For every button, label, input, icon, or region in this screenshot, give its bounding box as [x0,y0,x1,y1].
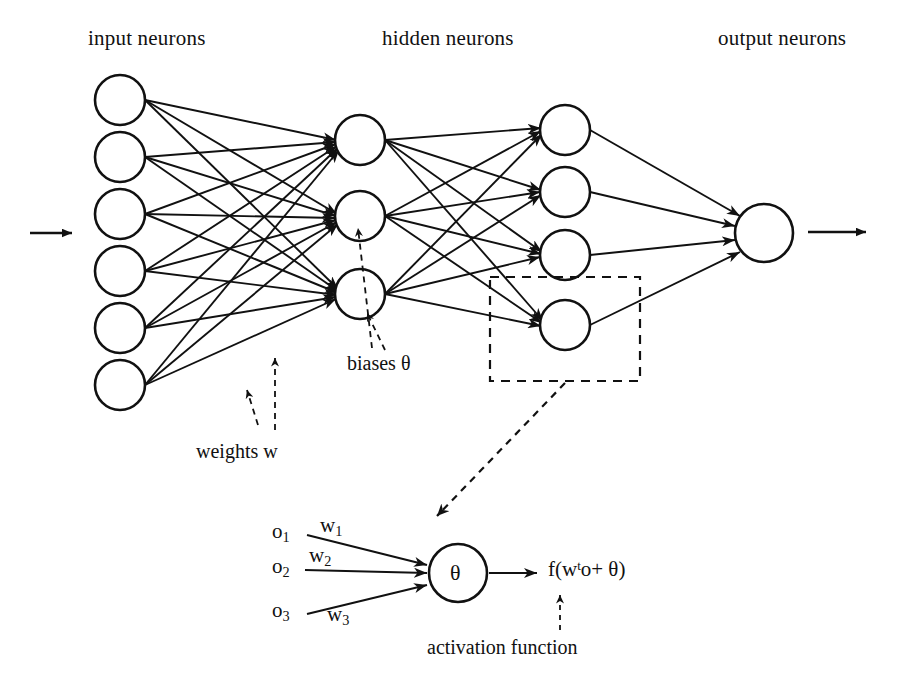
neuron-hidden1-2 [335,191,385,241]
inset-input-o1: o1 [272,519,290,546]
label-hidden-neurons: hidden neurons [382,26,514,51]
neuron-input-4 [95,246,145,296]
neuron-input-2 [95,132,145,182]
neuron-hidden1-3 [335,269,385,319]
edges-hidden2-to-output [590,130,740,325]
edges-input-to-hidden1 [145,100,339,385]
neuron-hidden2-1 [540,105,590,155]
label-output-neurons: output neurons [718,26,846,51]
neuron-input-1 [95,75,145,125]
inset-input-o2: o2 [272,554,290,581]
label-activation-function: activation function [427,636,578,659]
neuron-hidden2-4 [540,300,590,350]
neuron-hidden2-3 [540,230,590,280]
label-biases: biases θ [347,352,410,375]
neuron-output-1 [735,204,793,262]
inset-edge-3 [307,585,427,614]
neuron-input-5 [95,303,145,353]
inset-weight-w1: w1 [320,513,342,540]
inset-input-o3: o3 [272,598,290,625]
edges-hidden1-to-hidden2 [385,128,543,326]
inset-edge-2 [305,570,427,573]
neuron-hidden2-2 [540,167,590,217]
neuron-input-3 [95,189,145,239]
inset-output-expression: f(wto+ θ) [548,557,625,582]
label-weights: weights w [196,440,278,463]
inset-neuron-theta: θ [450,560,461,586]
weights-callout-arrow-2 [247,390,258,425]
neuron-hidden1-1 [335,115,385,165]
inset-weight-w2: w2 [309,543,331,570]
neuron-input-6 [95,360,145,410]
inset-weight-w3: w3 [327,602,349,629]
neural-network-figure: input neurons hidden neurons output neur… [0,0,918,673]
label-input-neurons: input neurons [88,26,206,51]
detail-callout-arrow [437,383,565,516]
